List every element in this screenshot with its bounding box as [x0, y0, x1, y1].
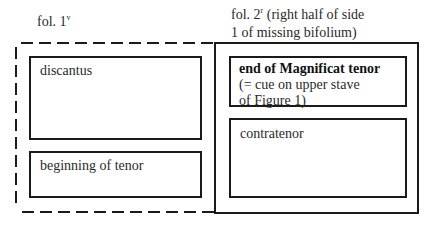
- magnificat-tenor-note-line2: of Figure 1): [239, 93, 399, 109]
- beginning-of-tenor-label: beginning of tenor: [40, 158, 194, 174]
- contratenor-box: contratenor: [229, 118, 407, 198]
- beginning-of-tenor-box: beginning of tenor: [29, 151, 202, 198]
- magnificat-tenor-title: end of Magnificat tenor: [239, 61, 399, 77]
- discantus-label: discantus: [40, 63, 194, 79]
- magnificat-tenor-note-line1: (= cue on upper stave: [239, 77, 399, 93]
- contratenor-label: contratenor: [240, 126, 399, 142]
- discantus-box: discantus: [29, 56, 202, 140]
- magnificat-tenor-text: end of Magnificat tenor (= cue on upper …: [239, 61, 399, 109]
- magnificat-tenor-box: end of Magnificat tenor (= cue on upper …: [229, 56, 407, 107]
